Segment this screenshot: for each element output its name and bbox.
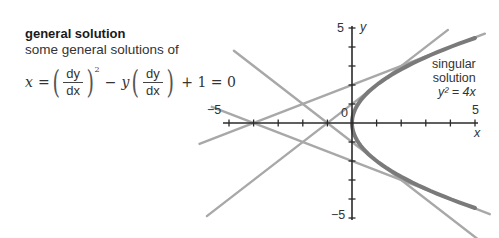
x-axis-max-label: 5 (472, 103, 479, 117)
x-axis-min-label: −5 (207, 103, 221, 117)
annotation-line-1: singular (432, 57, 476, 71)
x-axis-label: x (474, 126, 480, 140)
origin-label: 0 (341, 106, 348, 120)
singular-solution-annotation: singular solution y² = 4x (432, 57, 476, 99)
annotation-line-3: y² = 4x (432, 85, 476, 99)
annotation-line-2: solution (432, 71, 476, 85)
y-axis-max-label: 5 (337, 21, 344, 35)
y-axis-min-label: −5 (331, 208, 345, 222)
plot-area (0, 0, 499, 238)
y-axis-label: y (360, 20, 366, 34)
axes (223, 26, 478, 220)
